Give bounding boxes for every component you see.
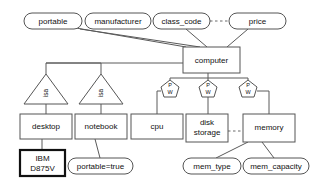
attribute-mem-capacity-label: mem_capacity: [250, 162, 302, 171]
attribute-portable-true-label: portable=true: [77, 162, 125, 171]
attribute-class-code-label: class_code: [161, 17, 202, 26]
er-diagram-canvas: isa isa P W P W P W: [0, 0, 326, 183]
entity-desktop[interactable]: desktop: [20, 114, 72, 139]
attribute-mem-capacity[interactable]: mem_capacity: [243, 158, 309, 174]
attribute-portable-true[interactable]: portable=true: [68, 158, 133, 174]
edge-manufacturer-computer: [80, 29, 200, 47]
attribute-class-code[interactable]: class_code: [153, 13, 210, 29]
attribute-mem-type-label: mem_type: [193, 162, 231, 171]
pw-cpu-top-label: P: [168, 82, 172, 88]
attribute-price[interactable]: price: [229, 13, 286, 29]
entity-ibm-d875v-label-line1: IBM: [35, 154, 50, 163]
isa-layer: isa isa: [24, 74, 123, 104]
isa-desktop-label: isa: [42, 88, 49, 97]
pw-disk-bottom-label: W: [205, 89, 211, 95]
attribute-mem-type[interactable]: mem_type: [183, 158, 241, 174]
pw-layer: P W P W P W: [161, 80, 257, 97]
isa-desktop[interactable]: isa: [24, 74, 68, 104]
attribute-manufacturer[interactable]: manufacturer: [85, 13, 151, 29]
pw-cpu[interactable]: P W: [161, 80, 179, 97]
edge-notebook-to-portable-true: [95, 139, 100, 158]
entity-disk-storage-label-line1: disk: [200, 118, 215, 127]
entity-ibm-d875v[interactable]: IBM D875V: [20, 150, 65, 176]
entity-notebook[interactable]: notebook: [75, 114, 127, 139]
edge-pw-cpu-to-cpu: [157, 91, 161, 114]
entity-computer[interactable]: computer: [183, 47, 240, 73]
attribute-manufacturer-label: manufacturer: [94, 17, 141, 26]
entity-cpu-label: cpu: [151, 122, 164, 131]
edge-pw-memory-to-memory: [257, 91, 269, 114]
edge-price-computer: [227, 29, 248, 47]
pw-cpu-bottom-label: W: [167, 89, 173, 95]
entity-ibm-d875v-label-line2: D875V: [30, 164, 55, 173]
er-diagram-svg: isa isa P W P W P W: [0, 0, 326, 183]
pw-memory-bottom-label: W: [245, 89, 251, 95]
entity-computer-label: computer: [195, 56, 229, 65]
pw-memory[interactable]: P W: [239, 80, 257, 97]
pw-disk-top-label: P: [206, 82, 210, 88]
isa-notebook-label: isa: [97, 88, 104, 97]
entity-desktop-label: desktop: [32, 122, 61, 131]
edge-memory-to-mem_type: [216, 142, 248, 158]
isa-notebook[interactable]: isa: [79, 74, 123, 104]
attribute-portable-label: portable: [39, 17, 68, 26]
entity-memory[interactable]: memory: [243, 114, 295, 142]
entity-memory-label: memory: [255, 123, 284, 132]
entity-cpu[interactable]: cpu: [131, 114, 183, 139]
edge-class_code-computer: [186, 29, 207, 47]
pw-disk[interactable]: P W: [199, 80, 217, 97]
entity-disk-storage[interactable]: disk storage: [186, 114, 228, 142]
entity-notebook-label: notebook: [85, 122, 119, 131]
entity-disk-storage-label-line2: storage: [194, 128, 221, 137]
attribute-price-label: price: [249, 17, 267, 26]
pw-memory-top-label: P: [246, 82, 250, 88]
edge-memory-to-mem_capacity: [262, 142, 274, 158]
attribute-portable[interactable]: portable: [24, 13, 82, 29]
